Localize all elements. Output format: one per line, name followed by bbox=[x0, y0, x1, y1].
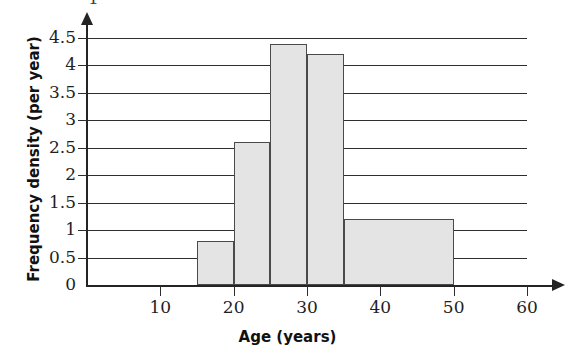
x-axis-tick bbox=[454, 286, 455, 296]
x-axis-title: Age (years) bbox=[0, 328, 575, 346]
y-axis-line bbox=[86, 22, 88, 285]
x-axis-tick bbox=[380, 286, 381, 296]
y-axis-tick bbox=[78, 175, 87, 176]
x-axis-tick bbox=[527, 286, 528, 296]
histogram-bar bbox=[197, 241, 234, 285]
x-axis-tick-label: 60 bbox=[507, 297, 547, 317]
histogram-bar bbox=[307, 54, 344, 285]
y-axis-tick bbox=[78, 65, 87, 66]
x-axis-tick bbox=[160, 286, 161, 296]
y-axis-tick bbox=[78, 230, 87, 231]
histogram-chart: 1 00.511.522.533.544.5 102030405060 Age … bbox=[0, 0, 575, 355]
plot-area bbox=[87, 38, 527, 285]
y-axis-arrow-icon bbox=[81, 12, 93, 25]
x-axis-line bbox=[86, 285, 554, 287]
y-axis-tick bbox=[78, 93, 87, 94]
histogram-bar bbox=[344, 219, 454, 285]
x-axis-tick-label: 10 bbox=[140, 297, 180, 317]
histogram-bar bbox=[270, 44, 307, 286]
y-axis-tick bbox=[78, 38, 87, 39]
x-axis-tick bbox=[307, 286, 308, 296]
x-axis-tick bbox=[234, 286, 235, 296]
x-axis-tick-label: 30 bbox=[287, 297, 327, 317]
y-axis-tick bbox=[78, 203, 87, 204]
gridline bbox=[87, 38, 527, 39]
x-axis-tick-label: 40 bbox=[360, 297, 400, 317]
x-axis-arrow-icon bbox=[552, 279, 565, 291]
cut-off-text-above: 1 bbox=[88, 0, 99, 8]
y-axis-tick bbox=[78, 148, 87, 149]
y-axis-tick bbox=[78, 258, 87, 259]
histogram-bar bbox=[234, 142, 271, 285]
y-axis-tick bbox=[78, 120, 87, 121]
x-axis-tick-label: 20 bbox=[214, 297, 254, 317]
x-axis-tick-label: 50 bbox=[434, 297, 474, 317]
y-axis-title: Frequency density (per year) bbox=[25, 29, 43, 289]
